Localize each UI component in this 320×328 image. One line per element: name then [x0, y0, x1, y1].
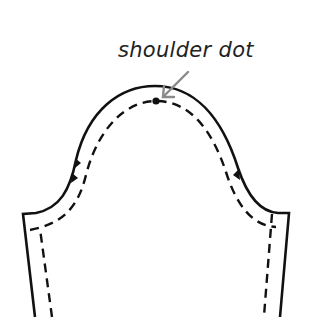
sleeve-cut-line: [23, 86, 289, 317]
shoulder-dot-label: shoulder dot: [118, 38, 254, 62]
shoulder-dot-icon: [152, 97, 159, 104]
notch-icon: [71, 173, 78, 183]
sleeve-seam-line: [30, 101, 276, 317]
notch-icon: [75, 158, 81, 168]
notch-icon: [233, 169, 240, 180]
